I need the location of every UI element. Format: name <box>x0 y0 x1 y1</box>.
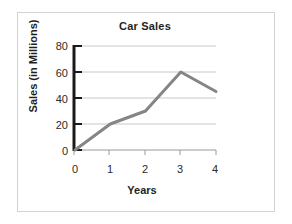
plot-area <box>0 0 292 224</box>
chart-figure: Car Sales Sales (in Millions) Years 80 6… <box>0 0 292 224</box>
y-axis-line <box>74 45 82 151</box>
x-axis-ticks <box>74 150 216 155</box>
data-series-line <box>75 72 216 150</box>
